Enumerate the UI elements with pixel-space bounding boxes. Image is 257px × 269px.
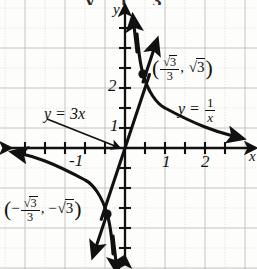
y-tick-label-2: 2: [108, 76, 117, 96]
point2-fraction: √3 3: [21, 196, 40, 224]
x-tick-label-2: 2: [201, 152, 210, 172]
curve-label-line: y = 3x: [44, 105, 85, 123]
point2-minus-first: −: [11, 200, 19, 216]
graph-figure: y 1 3: [0, 0, 257, 269]
point2-second-coord: √3: [57, 199, 75, 217]
hyperbola-label-eq: =: [189, 100, 200, 117]
x-axis-label: x: [249, 148, 256, 165]
line-label-eq: = 3: [55, 105, 78, 122]
hyperbola-fraction: 1 x: [205, 96, 216, 125]
point2-denominator: 3: [21, 211, 40, 224]
point1-fraction: √3 3: [160, 55, 179, 83]
point1-open-paren: (: [152, 56, 159, 80]
point2-close-paren: ): [74, 197, 81, 221]
line-callout-arrow: [47, 119, 115, 146]
intersection-dot-upper: [138, 69, 147, 78]
point2-minus-second: −: [48, 200, 56, 216]
point-label-lower: (− √3 3 , −√3): [4, 196, 82, 224]
point-label-upper: ( √3 3 , √3): [152, 55, 213, 83]
plot-layer: [0, 0, 257, 269]
point1-close-paren: ): [205, 56, 212, 80]
curve-label-hyperbola: y = 1 x: [178, 96, 216, 125]
intersection-dot-lower: [102, 209, 111, 218]
y-axis-label: y: [113, 1, 120, 18]
hyperbola-numerator: 1: [205, 96, 216, 111]
y-tick-label-1: 1: [110, 116, 119, 136]
x-tick-label-1: 1: [162, 152, 171, 172]
hyperbola-label-y: y: [178, 100, 185, 117]
point2-comma: ,: [41, 200, 45, 216]
x-tick-label-neg1: -1: [69, 151, 83, 171]
point1-comma: ,: [180, 59, 184, 75]
point2-numerator: √3: [21, 196, 40, 211]
point1-numerator: √3: [160, 55, 179, 70]
point1-second-coord: √3: [188, 58, 206, 76]
point1-denominator: 3: [160, 70, 179, 83]
line-label-x: x: [78, 105, 85, 122]
hyperbola-denominator: x: [205, 111, 216, 125]
line-label-y: y: [44, 105, 51, 122]
